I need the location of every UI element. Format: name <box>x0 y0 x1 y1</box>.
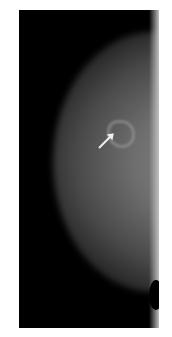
breast-tissue <box>53 32 159 292</box>
nipple-contour <box>149 280 159 310</box>
mammogram-image <box>19 10 159 328</box>
